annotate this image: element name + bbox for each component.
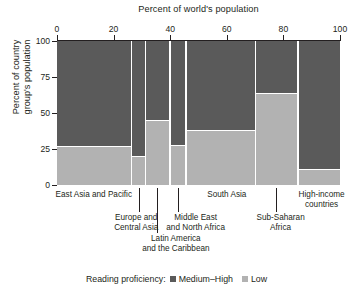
segment-medium-high-europe-and-central-asia[interactable] — [132, 41, 145, 156]
mosaic-column-east-asia-and-pacific[interactable] — [57, 41, 131, 185]
mosaic-column-middle-east-and-north-africa[interactable] — [171, 41, 185, 185]
y-tick-label-0: 0 — [45, 180, 50, 190]
legend-title: Reading proficiency: — [86, 274, 166, 284]
segment-medium-high-middle-east-and-north-africa[interactable] — [171, 41, 185, 145]
legend: Reading proficiency:Medium–HighLow — [0, 274, 362, 284]
x-tick-label-0: 0 — [55, 24, 60, 34]
x-tick-mark-20 — [114, 35, 115, 40]
category-label-latin-america-and-the-caribbean: Latin America and the Caribbean — [124, 234, 228, 253]
x-tick-mark-0 — [57, 35, 58, 40]
segment-medium-high-east-asia-and-pacific[interactable] — [57, 41, 131, 146]
y-tick-mark-50 — [52, 113, 57, 114]
segment-low-sub-saharan-africa[interactable] — [256, 94, 297, 185]
legend-swatch-low — [242, 276, 248, 282]
x-tick-label-40: 40 — [165, 24, 175, 34]
x-tick-mark-80 — [283, 35, 284, 40]
legend-swatch-medium-high — [170, 276, 176, 282]
segment-low-high-income-countries[interactable] — [299, 170, 340, 185]
leader-line-europe-and-central-asia — [139, 188, 140, 212]
legend-entry-low[interactable]: Low — [242, 274, 267, 284]
segment-low-europe-and-central-asia[interactable] — [132, 157, 145, 185]
x-tick-mark-100 — [340, 35, 341, 40]
segment-medium-high-latin-america-and-the-caribbean[interactable] — [146, 41, 169, 120]
segment-low-south-asia[interactable] — [187, 131, 255, 185]
mosaic-column-latin-america-and-the-caribbean[interactable] — [146, 41, 169, 185]
category-label-south-asia: South Asia — [192, 190, 262, 200]
segment-medium-high-south-asia[interactable] — [187, 41, 255, 130]
leader-line-middle-east-and-north-africa — [178, 188, 179, 212]
legend-entry-medium-high[interactable]: Medium–High — [170, 274, 233, 284]
x-tick-label-60: 60 — [222, 24, 232, 34]
x-tick-mark-40 — [170, 35, 171, 40]
category-label-east-asia-and-pacific: East Asia and Pacific — [44, 190, 144, 200]
y-tick-mark-0 — [52, 185, 57, 186]
legend-label-low: Low — [251, 274, 267, 284]
segment-medium-high-sub-saharan-africa[interactable] — [256, 41, 297, 93]
category-label-high-income-countries: High-income countries — [283, 190, 361, 209]
category-label-middle-east-and-north-africa: Middle East and North Africa — [148, 213, 244, 232]
x-tick-mark-60 — [227, 35, 228, 40]
x-tick-label-100: 100 — [333, 24, 347, 34]
category-labels: East Asia and PacificEurope and Central … — [57, 186, 340, 248]
x-tick-label-20: 20 — [109, 24, 119, 34]
mosaic-column-south-asia[interactable] — [187, 41, 255, 185]
y-tick-label-25: 25 — [40, 144, 50, 154]
y-tick-mark-75 — [52, 77, 57, 78]
mosaic-column-europe-and-central-asia[interactable] — [132, 41, 145, 185]
segment-low-middle-east-and-north-africa[interactable] — [171, 146, 185, 185]
segment-low-latin-america-and-the-caribbean[interactable] — [146, 121, 169, 185]
category-label-sub-saharan-africa: Sub-Saharan Africa — [242, 213, 320, 232]
y-axis-title-line-0: Percent of country — [11, 11, 22, 143]
x-tick-label-80: 80 — [279, 24, 289, 34]
segment-low-east-asia-and-pacific[interactable] — [57, 147, 131, 185]
chart-figure: Percent of world's population 0204060801… — [0, 0, 362, 294]
segment-medium-high-high-income-countries[interactable] — [299, 41, 340, 169]
x-axis-tick-labels: 020406080100 — [57, 24, 340, 35]
y-tick-mark-25 — [52, 149, 57, 150]
y-axis-tick-labels: 1007550250 — [24, 36, 50, 186]
leader-line-sub-saharan-africa — [276, 188, 277, 212]
y-tick-label-50: 50 — [40, 108, 50, 118]
mosaic-plot-area — [57, 41, 340, 185]
chart-title: Percent of world's population — [57, 4, 340, 14]
y-tick-label-75: 75 — [40, 72, 50, 82]
mosaic-column-sub-saharan-africa[interactable] — [256, 41, 297, 185]
mosaic-column-high-income-countries[interactable] — [299, 41, 340, 185]
y-tick-label-100: 100 — [36, 36, 50, 46]
legend-label-medium-high: Medium–High — [179, 274, 233, 284]
y-tick-mark-100 — [52, 41, 57, 42]
